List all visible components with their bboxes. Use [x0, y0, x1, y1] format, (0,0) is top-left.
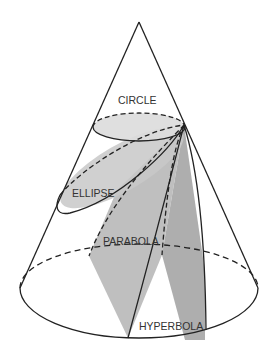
label-hyperbola: HYPERBOLA	[139, 320, 203, 332]
label-ellipse: ELLIPSE	[72, 187, 115, 199]
label-circle: CIRCLE	[118, 94, 157, 106]
conic-sections-diagram: CIRCLE ELLIPSE PARABOLA HYPERBOLA	[0, 0, 276, 358]
label-parabola: PARABOLA	[103, 235, 159, 247]
cone-figure: CIRCLE ELLIPSE PARABOLA HYPERBOLA	[0, 0, 276, 358]
